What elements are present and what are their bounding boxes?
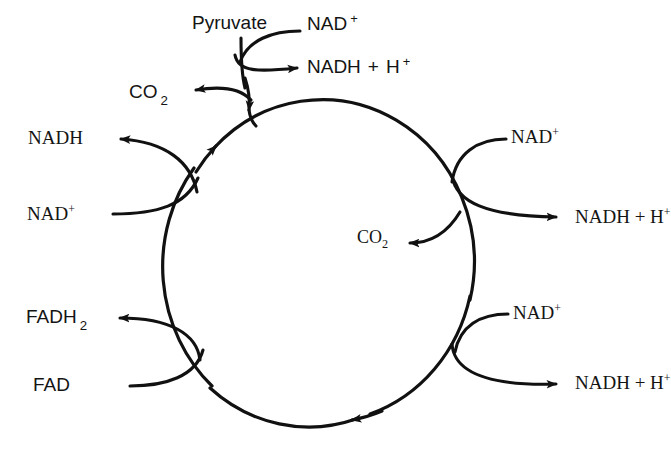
- label-nadh-left: NADH: [28, 128, 83, 147]
- label-nadh-right-upper-text: NADH + H: [575, 206, 664, 227]
- label-h-top-text: H: [386, 56, 400, 77]
- co2-top-outflow-curve: [196, 88, 251, 100]
- nad-right-upper-inflow-curve: [452, 139, 506, 182]
- label-fadh2: FADH2: [26, 307, 87, 326]
- label-nadh-right-upper: NADH + H+: [575, 207, 670, 226]
- label-nad-left-text: NAD: [27, 203, 68, 224]
- label-co2-middle-text: CO: [357, 227, 382, 247]
- label-fad: FAD: [33, 375, 70, 394]
- label-co2-middle: CO2: [357, 228, 388, 250]
- label-nad-right-lower: NAD+: [513, 303, 561, 322]
- label-nadh-right-lower-text: NADH + H: [575, 372, 664, 393]
- label-nad-left-charge: +: [68, 203, 75, 216]
- label-fadh2-text: FADH: [26, 306, 77, 327]
- co2-mid-outflow-curve: [410, 212, 460, 243]
- label-nadh-right-upper-charge: +: [664, 206, 671, 219]
- label-fadh2-subscript: 2: [80, 318, 87, 333]
- cycle-ring-bottom-left: [210, 388, 356, 427]
- diagram-canvas: Pyruvate NAD+ NADH+H+ CO2 NADH NAD+ NAD+…: [0, 0, 671, 456]
- label-nad-right-upper-text: NAD: [511, 126, 552, 147]
- label-co2-top-subscript: 2: [161, 93, 168, 108]
- fad-inflow-curve: [130, 350, 203, 386]
- nad-top-inflow-curve: [240, 31, 300, 62]
- pyruvate-cycle-connector: [249, 110, 256, 126]
- label-nad-top-text: NAD: [307, 13, 347, 34]
- cycle-ring-top-right: [214, 100, 474, 300]
- label-pyruvate: Pyruvate: [192, 13, 267, 32]
- label-co2-top: CO2: [129, 82, 168, 101]
- label-co2-middle-subscript: 2: [382, 237, 388, 251]
- label-nad-right-upper: NAD+: [511, 127, 559, 146]
- nadh-right-lower-outflow-curve: [452, 344, 556, 384]
- nadh-top-outflow-curve: [235, 55, 297, 70]
- label-pyruvate-text: Pyruvate: [192, 12, 267, 33]
- cycle-ring-left-ascending: [163, 168, 212, 386]
- label-nadh-left-text: NADH: [28, 127, 83, 148]
- label-nad-right-upper-charge: +: [552, 126, 559, 139]
- cycle-ring-arrow-upleft: [196, 146, 216, 172]
- label-nadh-h-top: NADH+H+: [307, 56, 410, 76]
- label-h-top-charge: +: [403, 54, 411, 69]
- label-nadh-right-lower: NADH + H+: [575, 373, 670, 392]
- label-nadh-right-lower-charge: +: [664, 372, 671, 385]
- label-nad-right-lower-text: NAD: [513, 302, 554, 323]
- label-plus-top: +: [368, 56, 379, 77]
- label-nad-left: NAD+: [27, 204, 75, 223]
- label-nad-top: NAD+: [307, 13, 358, 33]
- label-nadh-top-text: NADH: [307, 56, 361, 77]
- label-nad-right-lower-charge: +: [554, 302, 561, 315]
- label-fad-text: FAD: [33, 374, 70, 395]
- label-co2-top-text: CO: [129, 81, 158, 102]
- label-nad-top-charge: +: [350, 11, 358, 26]
